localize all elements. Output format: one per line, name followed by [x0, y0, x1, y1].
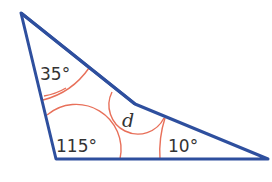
angle-label-bottom-left: 115°	[56, 136, 97, 156]
angle-label-reflex: d	[122, 109, 134, 131]
angle-label-bottom-right: 10°	[168, 136, 198, 156]
angle-label-top: 35°	[40, 64, 70, 84]
quadrilateral-diagram: 35° 115° 10° d	[0, 0, 272, 182]
